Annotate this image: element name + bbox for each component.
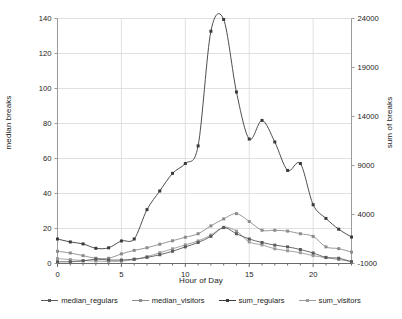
data-point-marker — [120, 239, 123, 242]
series-line — [58, 14, 352, 249]
data-point-marker — [324, 217, 327, 220]
svg-text:14000: 14000 — [358, 112, 379, 121]
legend-item-median_regulars[interactable]: median_regulars — [41, 296, 118, 305]
data-point-marker — [248, 220, 251, 223]
data-point-marker — [324, 256, 327, 259]
data-point-marker — [69, 252, 72, 255]
legend-label: sum_regulars — [239, 296, 285, 305]
data-point-marker — [261, 229, 264, 232]
data-point-marker — [120, 259, 123, 262]
svg-text:0: 0 — [47, 259, 51, 268]
legend-marker-icon — [41, 296, 58, 305]
data-point-marker — [235, 91, 238, 94]
data-point-marker — [158, 189, 161, 192]
svg-text:40: 40 — [43, 189, 51, 198]
data-point-marker — [312, 235, 315, 238]
svg-text:20: 20 — [43, 224, 51, 233]
data-point-marker — [222, 226, 225, 229]
data-point-marker — [209, 235, 212, 238]
legend-marker-icon — [219, 296, 236, 305]
data-point-marker — [235, 212, 238, 215]
data-point-marker — [337, 247, 340, 250]
data-series — [56, 14, 353, 264]
data-point-marker — [209, 30, 212, 33]
svg-text:140: 140 — [39, 14, 52, 23]
data-point-marker — [299, 232, 302, 235]
data-point-marker — [235, 232, 238, 235]
data-point-marker — [337, 257, 340, 260]
data-point-marker — [286, 245, 289, 248]
data-point-marker — [69, 240, 72, 243]
data-point-marker — [248, 138, 251, 141]
data-point-marker — [56, 238, 59, 241]
svg-text:19000: 19000 — [358, 63, 379, 72]
data-point-marker — [312, 252, 315, 255]
data-point-marker — [82, 242, 85, 245]
data-point-marker — [133, 249, 136, 252]
data-point-marker — [107, 246, 110, 249]
data-point-marker — [171, 239, 174, 242]
data-point-marker — [261, 241, 264, 244]
data-point-marker — [248, 240, 251, 243]
legend-label: median_regulars — [61, 296, 118, 305]
data-point-marker — [286, 169, 289, 172]
svg-text:4000: 4000 — [358, 210, 375, 219]
data-point-marker — [197, 241, 200, 244]
data-point-marker — [158, 253, 161, 256]
data-point-marker — [82, 259, 85, 262]
svg-text:0: 0 — [55, 270, 59, 279]
data-point-marker — [273, 229, 276, 232]
svg-text:5: 5 — [119, 270, 123, 279]
data-point-marker — [261, 119, 264, 122]
data-point-marker — [184, 236, 187, 239]
data-point-marker — [120, 252, 123, 255]
data-point-marker — [312, 254, 315, 257]
series-line — [58, 214, 352, 259]
data-point-marker — [299, 248, 302, 251]
data-point-marker — [69, 260, 72, 263]
data-point-marker — [56, 250, 59, 253]
data-point-marker — [133, 238, 136, 241]
axis-ticks: 020406080100120140-100040009000140001900… — [39, 14, 379, 278]
data-point-marker — [171, 250, 174, 253]
svg-text:80: 80 — [43, 119, 51, 128]
series-median_visitors — [56, 212, 353, 260]
data-point-marker — [145, 208, 148, 211]
svg-text:15: 15 — [245, 270, 253, 279]
series-sum_visitors — [56, 226, 353, 263]
data-point-marker — [184, 162, 187, 165]
data-point-marker — [286, 230, 289, 233]
data-point-marker — [209, 224, 212, 227]
legend-item-median_visitors[interactable]: median_visitors — [132, 296, 205, 305]
chart-container: median breaks sum of breaks Hour of Day … — [0, 0, 402, 319]
plot-area: 020406080100120140-100040009000140001900… — [0, 0, 402, 319]
data-point-marker — [56, 257, 59, 260]
svg-text:10: 10 — [181, 270, 189, 279]
chart-legend: median_regularsmedian_visitorssum_regula… — [0, 296, 402, 305]
svg-text:-1000: -1000 — [358, 259, 377, 268]
data-point-marker — [286, 249, 289, 252]
data-point-marker — [312, 203, 315, 206]
data-point-marker — [133, 258, 136, 261]
svg-text:20: 20 — [309, 270, 317, 279]
legend-item-sum_visitors[interactable]: sum_visitors — [299, 296, 361, 305]
svg-text:100: 100 — [39, 84, 52, 93]
legend-marker-icon — [299, 296, 316, 305]
gridlines — [58, 19, 352, 264]
data-point-marker — [94, 258, 97, 261]
svg-text:120: 120 — [39, 49, 52, 58]
data-point-marker — [273, 247, 276, 250]
data-point-marker — [197, 232, 200, 235]
svg-text:24000: 24000 — [358, 14, 379, 23]
series-line — [58, 227, 352, 261]
data-point-marker — [145, 246, 148, 249]
data-point-marker — [107, 259, 110, 262]
legend-label: median_visitors — [152, 296, 205, 305]
data-point-marker — [94, 247, 97, 250]
legend-item-sum_regulars[interactable]: sum_regulars — [219, 296, 285, 305]
data-point-marker — [273, 140, 276, 143]
series-median_regulars — [56, 226, 353, 263]
data-point-marker — [82, 254, 85, 257]
data-point-marker — [350, 260, 353, 263]
data-point-marker — [350, 251, 353, 254]
